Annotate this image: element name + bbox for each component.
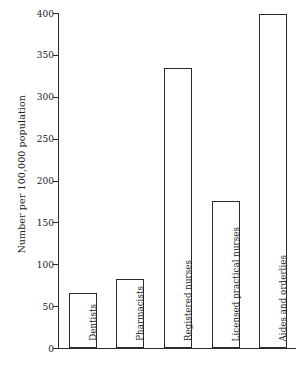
y-tick-label: 200 <box>37 177 54 186</box>
y-tick-label: 300 <box>37 93 54 102</box>
bar-chart: Number per 100,000 population 0501001502… <box>0 0 301 368</box>
bar: Dentists <box>69 293 97 348</box>
bar: Pharmacists <box>116 279 144 349</box>
y-tick: 200 <box>58 181 59 182</box>
bar-category-label: Pharmacists <box>135 286 145 341</box>
y-tick-label: 350 <box>37 51 54 60</box>
y-tick: 350 <box>58 55 59 56</box>
y-tick-label: 50 <box>43 302 54 311</box>
y-tick: 100 <box>58 264 59 265</box>
y-tick: 250 <box>58 139 59 140</box>
y-axis-title: Number per 100,000 population <box>14 0 28 348</box>
y-axis-title-label: Number per 100,000 population <box>16 95 27 254</box>
bar-category-label: Licensed practical nurses <box>231 227 241 341</box>
bar: Aides and orderlies <box>259 14 287 348</box>
bar: Licensed practical nurses <box>212 201 240 348</box>
x-axis-line <box>58 348 296 349</box>
y-tick: 150 <box>58 222 59 223</box>
bar-category-label: Aides and orderlies <box>278 255 288 341</box>
y-tick-label: 0 <box>48 344 54 353</box>
bar-category-label: Registered nurses <box>183 260 193 341</box>
bar: Registered nurses <box>164 68 192 348</box>
y-tick-label: 150 <box>37 218 54 227</box>
y-tick: 0 <box>58 348 59 349</box>
y-tick-label: 100 <box>37 260 54 269</box>
plot-area: 050100150200250300350400 DentistsPharmac… <box>58 13 296 348</box>
bar-category-label: Dentists <box>88 304 98 341</box>
y-tick-label: 250 <box>37 135 54 144</box>
y-tick: 400 <box>58 13 59 14</box>
y-tick-label: 400 <box>37 9 54 18</box>
y-tick: 300 <box>58 97 59 98</box>
y-tick: 50 <box>58 306 59 307</box>
